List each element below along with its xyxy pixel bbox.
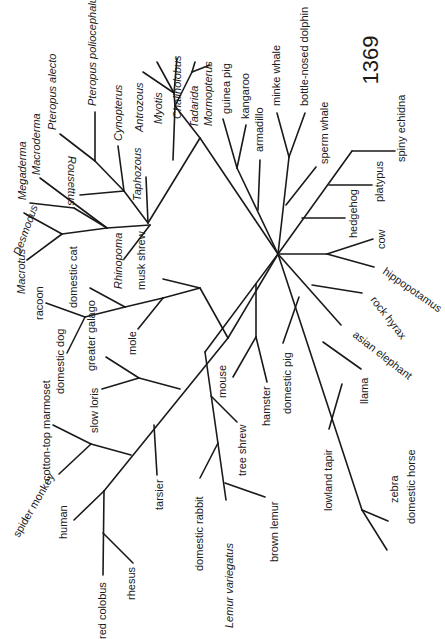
branch: [237, 168, 278, 254]
branch: [146, 177, 148, 223]
taxon-label: Pteropus alecto: [46, 54, 58, 130]
taxon-label: minke whale: [270, 45, 282, 106]
branch: [67, 317, 85, 353]
page-number: 1369: [358, 36, 383, 85]
taxon-label: Lemur variegatus: [223, 543, 235, 628]
taxon-label: domestic dog: [54, 329, 66, 394]
branch: [205, 254, 278, 352]
taxon-label: domestic rabbit: [193, 496, 205, 571]
branch: [323, 342, 361, 369]
branch: [107, 225, 150, 228]
taxon-label: Myotis: [152, 92, 164, 124]
taxon-label: tarsier: [153, 479, 165, 510]
phylogenetic-tree: 1369: [0, 0, 445, 639]
branch: [283, 297, 299, 343]
taxon-label: red colobus: [96, 582, 108, 639]
taxon-label: domestic cat: [67, 246, 79, 308]
taxon-label: bottle-nosed dolphin: [298, 7, 310, 106]
taxon-label: Rousettus: [66, 156, 78, 206]
branch: [278, 157, 289, 254]
taxon-label: hamster: [260, 386, 272, 426]
branch: [233, 337, 256, 377]
branch: [53, 425, 91, 444]
branch: [106, 357, 139, 378]
branch: [200, 443, 218, 478]
branch: [223, 119, 237, 168]
taxon-label: Desmodus: [11, 203, 40, 257]
taxon-label: Chalinolobus: [171, 55, 183, 119]
branch: [286, 167, 316, 205]
branch: [59, 444, 91, 474]
branch: [327, 254, 374, 267]
branch: [278, 254, 341, 325]
taxon-label: greater galago: [85, 300, 97, 371]
branch: [329, 384, 342, 429]
taxon-label: Megaderma: [16, 141, 28, 200]
taxon-label: kangaroo: [239, 73, 251, 119]
branch: [95, 161, 124, 191]
taxon-labels: Pteropus poliocephalus Pteropus alecto C…: [10, 0, 444, 639]
branch: [74, 491, 104, 520]
branch: [200, 288, 228, 338]
branch: [256, 337, 267, 382]
branch: [237, 125, 246, 168]
taxon-label: Macroderma: [30, 113, 42, 175]
taxon-label: zebra: [388, 475, 400, 503]
branch: [46, 303, 85, 317]
branch: [163, 279, 200, 288]
taxon-label: spiny echidna: [395, 94, 407, 162]
taxon-label: guinea pig: [220, 63, 232, 114]
branch: [143, 72, 174, 93]
branch: [327, 239, 373, 254]
branch: [154, 425, 157, 475]
taxon-label: domestic horse: [405, 449, 417, 524]
taxon-label: Taphozous: [131, 147, 143, 201]
taxon-label: sperm whale: [318, 102, 330, 164]
branch: [102, 378, 139, 389]
taxon-label: rhesus: [125, 566, 137, 600]
taxon-label: mole: [126, 331, 138, 355]
taxon-label: hedgehog: [347, 189, 359, 238]
branch: [225, 483, 265, 497]
branch: [62, 228, 107, 234]
taxon-label: musk shrew: [135, 231, 147, 290]
taxon-label: slow loris: [88, 387, 100, 433]
taxon-label: domestic pig: [281, 352, 293, 414]
taxon-label: Tadarida: [188, 86, 200, 128]
taxon-label: hippopotamus: [381, 265, 445, 315]
taxon-label: rock hyrax: [368, 294, 409, 342]
taxon-label: tree shrew: [236, 425, 248, 476]
taxon-label: llama: [358, 377, 370, 404]
branch: [163, 288, 200, 298]
taxon-label: armadillo: [253, 107, 265, 152]
taxon-label: Cynopterus: [112, 84, 124, 141]
branch: [312, 285, 362, 293]
taxon-label: cotton-top marmoset: [40, 380, 52, 481]
branch: [104, 338, 228, 491]
taxon-label: lowland tapir: [322, 449, 334, 511]
branch: [103, 533, 133, 563]
branch: [27, 234, 62, 260]
taxon-label: Antrozous: [133, 82, 145, 133]
taxon-label: spider monkey: [10, 471, 56, 539]
branch: [228, 254, 278, 338]
taxon-label: platypus: [373, 161, 385, 202]
branch: [258, 160, 260, 210]
branch: [277, 113, 289, 157]
taxon-label: Mormopterus: [202, 61, 214, 126]
tree-branches: [24, 58, 395, 575]
taxon-label: mouse: [216, 365, 228, 398]
branch: [80, 191, 124, 195]
taxon-label: Rhinopoma: [112, 233, 124, 289]
taxon-label: racoon: [33, 286, 45, 320]
taxon-label: Macrotus: [15, 248, 27, 294]
taxon-label: brown lemur: [268, 501, 280, 562]
branch: [139, 378, 180, 389]
taxon-label: human: [57, 505, 69, 539]
taxon-label: cow: [375, 229, 387, 249]
branch: [278, 151, 352, 254]
branch: [91, 444, 131, 455]
branch: [289, 113, 305, 157]
branch: [118, 146, 124, 191]
taxon-label: Pteropus poliocephalus: [86, 0, 98, 106]
